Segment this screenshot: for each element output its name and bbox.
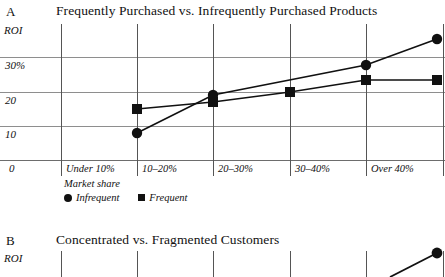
panel-b-letter: B — [6, 233, 15, 249]
panel-b-series-layer — [0, 251, 445, 277]
datapoint-infrequent-30-40 — [361, 60, 371, 70]
panel-a-letter: A — [6, 4, 15, 20]
datapoint-frequent-10-20 — [132, 104, 142, 114]
square-marker-icon — [138, 194, 145, 201]
circle-marker-icon — [64, 194, 72, 202]
panel-a: A Frequently Purchased vs. Infrequently … — [0, 0, 445, 222]
panel-b: B Concentrated vs. Fragmented Customers … — [0, 225, 445, 277]
series-infrequent-line — [137, 39, 437, 133]
legend-entries: Infrequent Frequent — [64, 192, 201, 203]
panel-a-title: Frequently Purchased vs. Infrequently Pu… — [56, 3, 377, 19]
panel-a-plot-area: 30% 20 10 0 Under 10% 10–20% 20–30% 30–4… — [0, 24, 445, 161]
panel-b-title: Concentrated vs. Fragmented Customers — [56, 232, 279, 248]
datapoint-frequent-30-40 — [361, 75, 371, 85]
panel-a-legend: Market share Infrequent Frequent — [64, 178, 201, 203]
datapoint-frequent-20-30 — [208, 97, 218, 107]
panel-b-datapoint-over-40 — [432, 248, 443, 259]
datapoint-frequent-over-40 — [432, 75, 442, 85]
datapoint-infrequent-10-20 — [132, 128, 142, 138]
legend-label-infrequent: Infrequent — [76, 192, 119, 203]
panel-a-series-layer — [0, 24, 445, 176]
legend-entry-infrequent: Infrequent — [64, 192, 119, 203]
panel-b-plot-area — [0, 251, 445, 277]
datapoint-infrequent-over-40 — [432, 34, 442, 44]
panel-b-series-line — [390, 253, 437, 277]
legend-title: Market share — [64, 178, 201, 189]
legend-entry-frequent: Frequent — [138, 192, 187, 203]
datapoint-frequent-30-40a — [285, 87, 295, 97]
legend-label-frequent: Frequent — [149, 192, 187, 203]
